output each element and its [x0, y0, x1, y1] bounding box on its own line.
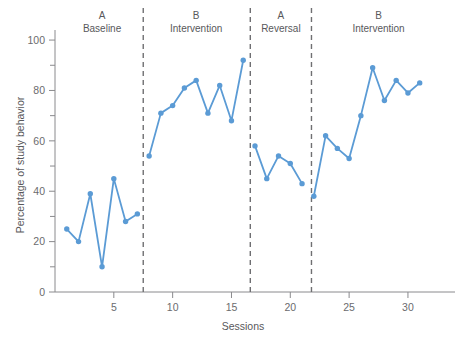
data-point [64, 226, 69, 231]
data-point [252, 143, 257, 148]
phase-letter-label: A [278, 10, 285, 21]
data-point [417, 80, 422, 85]
data-point [158, 110, 163, 115]
x-tick-label: 25 [343, 301, 355, 313]
single-subject-reversal-design-chart: 020406080100 51015202530 ABaselineBInter… [0, 0, 475, 338]
x-tick-label: 10 [167, 301, 179, 313]
data-point [111, 176, 116, 181]
x-tick-label: 15 [226, 301, 238, 313]
phase-name-label: Reversal [261, 23, 300, 34]
x-tick-label: 20 [284, 301, 296, 313]
phase-letter-label: B [193, 10, 200, 21]
data-point [370, 65, 375, 70]
phase-name-label: Intervention [170, 23, 222, 34]
data-point [170, 103, 175, 108]
phase-letter-label: B [375, 10, 382, 21]
y-tick-label: 80 [33, 84, 45, 96]
data-point [99, 264, 104, 269]
data-point [393, 78, 398, 83]
x-axis-title: Sessions [222, 320, 265, 332]
data-point [299, 181, 304, 186]
y-tick-label: 40 [33, 185, 45, 197]
plot-background [0, 0, 475, 338]
data-point [123, 219, 128, 224]
data-point [88, 191, 93, 196]
data-point [264, 176, 269, 181]
data-point [146, 153, 151, 158]
data-point [182, 85, 187, 90]
data-point [76, 239, 81, 244]
data-point [229, 118, 234, 123]
data-point [323, 133, 328, 138]
phase-name-label: Baseline [83, 23, 122, 34]
data-point [276, 153, 281, 158]
data-point [193, 78, 198, 83]
data-point [135, 211, 140, 216]
y-tick-label: 100 [27, 34, 45, 46]
data-point [346, 156, 351, 161]
phase-name-label: Intervention [352, 23, 404, 34]
data-point [288, 161, 293, 166]
data-point [405, 90, 410, 95]
chart-container: 020406080100 51015202530 ABaselineBInter… [0, 0, 475, 338]
x-tick-label: 30 [402, 301, 414, 313]
data-point [217, 83, 222, 88]
x-tick-label: 5 [111, 301, 117, 313]
data-point [311, 194, 316, 199]
y-tick-label: 20 [33, 235, 45, 247]
data-point [358, 113, 363, 118]
data-point [241, 58, 246, 63]
y-tick-label: 60 [33, 135, 45, 147]
y-tick-label: 0 [39, 286, 45, 298]
y-axis-title: Percentage of study behavior [14, 96, 26, 233]
data-point [382, 98, 387, 103]
data-point [205, 110, 210, 115]
phase-letter-label: A [99, 10, 106, 21]
data-point [335, 146, 340, 151]
